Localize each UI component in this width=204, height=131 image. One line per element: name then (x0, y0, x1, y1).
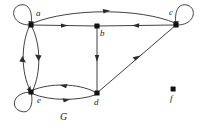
arrowhead-b-to-d (95, 55, 99, 62)
vertex-label-f: f (170, 94, 173, 103)
arrowhead-d-to-c (133, 56, 141, 61)
vertex-c[interactable] (173, 22, 178, 27)
vertex-d[interactable] (94, 90, 99, 95)
arrowhead-e-to-a (19, 56, 26, 63)
arrowhead-a-to-e (35, 55, 42, 62)
edge-a-to-c (33, 12, 175, 23)
directed-graph-figure: a b c d e f G (0, 0, 204, 131)
graph-canvas (0, 0, 204, 131)
edge-e-to-a (23, 27, 30, 90)
vertex-f[interactable] (171, 87, 176, 92)
figure-caption: G (60, 112, 67, 122)
vertex-label-d: d (94, 98, 99, 107)
vertex-label-a: a (36, 9, 41, 18)
vertex-b[interactable] (94, 23, 99, 28)
vertex-e[interactable] (28, 89, 33, 94)
vertex-a[interactable] (28, 22, 33, 27)
arrowhead-c-to-b (132, 23, 139, 27)
arrowhead-a-to-c (103, 9, 110, 13)
vertex-label-b: b (100, 29, 105, 38)
edge-e-self-loop (14, 92, 32, 112)
vertex-label-c: c (169, 8, 173, 17)
vertex-label-e: e (37, 96, 41, 105)
arrowhead-a-to-b (61, 23, 68, 27)
